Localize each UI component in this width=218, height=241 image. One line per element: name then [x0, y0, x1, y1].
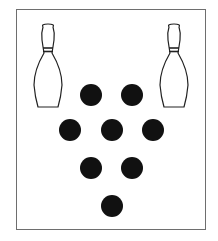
right-pin-icon: [160, 24, 188, 107]
dot-8: [101, 195, 123, 217]
dot-2: [121, 84, 143, 106]
dot-4: [101, 119, 123, 141]
dot-7: [121, 157, 143, 179]
pins-group: [34, 24, 188, 107]
dot-3: [59, 119, 81, 141]
dots-group: [59, 84, 164, 217]
dot-5: [142, 119, 164, 141]
left-pin-icon: [34, 24, 62, 107]
dot-6: [80, 157, 102, 179]
dot-1: [80, 84, 102, 106]
bowling-diagram: [0, 0, 218, 241]
